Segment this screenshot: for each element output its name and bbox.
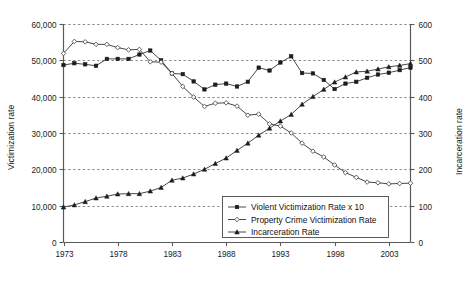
x-tick-label: 1993 <box>271 250 290 259</box>
chart-legend[interactable]: Violent Victimization Rate x 10Property … <box>223 197 389 238</box>
right-tick-label: 500 <box>419 57 433 66</box>
x-tick-label: 2003 <box>380 250 399 259</box>
data-point <box>409 66 412 69</box>
data-point <box>149 49 152 52</box>
data-point <box>376 73 379 76</box>
data-point <box>344 82 347 85</box>
data-point <box>94 64 97 67</box>
right-tick-label: 200 <box>419 166 433 175</box>
data-point <box>214 83 217 86</box>
left-axis-title: Victimization rate <box>6 105 16 170</box>
data-point <box>73 62 76 65</box>
x-tick-label: 1988 <box>217 250 236 259</box>
data-point <box>322 78 325 81</box>
legend-label: Property Crime Victimization Rate <box>251 215 377 225</box>
legend-label: Violent Victimization Rate x 10 <box>251 202 364 212</box>
left-tick-label: 30,000 <box>31 130 56 139</box>
right-tick-label: 400 <box>419 94 433 103</box>
right-axis-title: Incarceration rate <box>454 108 464 175</box>
left-tick-label: 60,000 <box>31 21 56 30</box>
data-point <box>268 69 271 72</box>
chart-container: 010,00020,00030,00040,00050,00060,000 01… <box>0 0 472 281</box>
chart-svg: 010,00020,00030,00040,00050,00060,000 01… <box>0 0 472 281</box>
data-point <box>398 68 401 71</box>
data-point <box>105 57 108 60</box>
data-point <box>181 72 184 75</box>
right-tick-label: 600 <box>419 21 433 30</box>
data-point <box>387 71 390 74</box>
left-tick-label: 20,000 <box>31 166 56 175</box>
data-point <box>311 72 314 75</box>
data-point <box>257 66 260 69</box>
left-tick-label: 10,000 <box>31 203 56 212</box>
left-tick-label: 0 <box>52 239 57 248</box>
data-point <box>192 80 195 83</box>
x-tick-label: 1998 <box>326 250 345 259</box>
x-tick-label: 1983 <box>163 250 182 259</box>
data-point <box>355 80 358 83</box>
right-tick-label: 0 <box>419 239 424 248</box>
data-point <box>290 55 293 58</box>
data-point <box>333 87 336 90</box>
right-tick-label: 300 <box>419 130 433 139</box>
data-point <box>300 71 303 74</box>
data-point <box>127 57 130 60</box>
data-point <box>116 57 119 60</box>
right-tick-label: 100 <box>419 203 433 212</box>
x-tick-label: 1973 <box>55 250 74 259</box>
legend-label: Incarceration Rate <box>251 227 320 237</box>
data-point <box>62 63 65 66</box>
left-tick-label: 40,000 <box>31 94 56 103</box>
left-tick-label: 50,000 <box>31 57 56 66</box>
data-point <box>279 61 282 64</box>
chart-background <box>0 0 472 281</box>
data-point <box>138 53 141 56</box>
data-point <box>224 82 227 85</box>
data-point <box>83 63 86 66</box>
legend-marker-filled-square-icon <box>235 205 238 208</box>
x-tick-label: 1978 <box>109 250 128 259</box>
data-point <box>365 76 368 79</box>
data-point <box>203 88 206 91</box>
data-point <box>246 80 249 83</box>
data-point <box>235 85 238 88</box>
